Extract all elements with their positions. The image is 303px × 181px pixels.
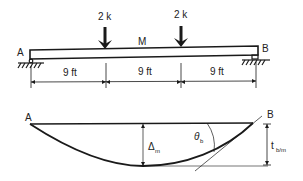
beam-diagram: A B 2 k 2 k M 9 ft 9 ft 9 f bbox=[0, 0, 303, 181]
support-label-a: A bbox=[17, 47, 24, 58]
span-label-1: 9 ft bbox=[63, 67, 77, 78]
theta-b-label: θ b bbox=[194, 131, 204, 144]
support-label-b: B bbox=[262, 43, 269, 54]
load-label-2: 2 k bbox=[174, 9, 188, 20]
diagram-canvas: A B 2 k 2 k M 9 ft 9 ft 9 f bbox=[0, 0, 303, 181]
load-arrow-2 bbox=[174, 26, 188, 47]
midpoint-label-m: M bbox=[138, 36, 146, 47]
svg-text:b/m: b/m bbox=[276, 147, 286, 153]
svg-text:Δ: Δ bbox=[148, 141, 155, 152]
deflection-label-b: B bbox=[267, 109, 274, 120]
load-arrow-1 bbox=[98, 27, 112, 49]
theta-arc bbox=[207, 123, 214, 152]
svg-text:t: t bbox=[271, 140, 274, 151]
t-bm-label: t b/m bbox=[271, 140, 286, 153]
chord-line bbox=[30, 123, 253, 124]
tangent-at-b bbox=[195, 116, 262, 171]
delta-m-label: Δ m bbox=[148, 141, 160, 154]
span-label-3: 9 ft bbox=[210, 66, 224, 77]
elastic-curve bbox=[30, 123, 253, 166]
svg-text:b: b bbox=[200, 138, 204, 144]
deflection-label-a: A bbox=[25, 112, 32, 123]
svg-text:m: m bbox=[155, 148, 160, 154]
beam bbox=[30, 46, 258, 59]
load-label-1: 2 k bbox=[98, 11, 112, 22]
span-label-2: 9 ft bbox=[138, 66, 152, 77]
deflection-arrowheads bbox=[141, 124, 269, 166]
